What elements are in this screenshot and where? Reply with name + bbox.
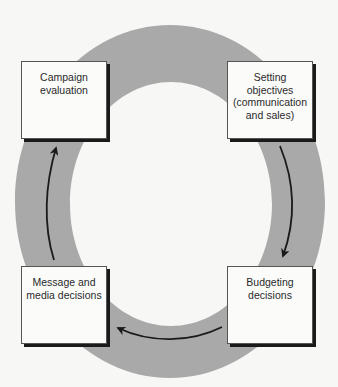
stage-label-line: and sales)	[228, 109, 312, 122]
stage-label-line: Message and	[22, 276, 106, 289]
stage-label-line: Budgeting	[228, 276, 312, 289]
stage-label-line: objectives	[228, 84, 312, 97]
stage-label-line: (communication	[228, 96, 312, 109]
stage-label-line: Campaign	[22, 71, 106, 84]
stage-label-line: media decisions	[22, 289, 106, 302]
stage-budgeting-decisions: Budgeting decisions	[227, 266, 313, 344]
stage-label-line: evaluation	[22, 84, 106, 97]
stage-label-line: decisions	[228, 289, 312, 302]
stage-label-line: Setting	[228, 71, 312, 84]
stage-message-media-decisions: Message and media decisions	[21, 266, 107, 344]
stage-setting-objectives: Setting objectives (communication and sa…	[227, 61, 313, 139]
stage-campaign-evaluation: Campaign evaluation	[21, 61, 107, 139]
